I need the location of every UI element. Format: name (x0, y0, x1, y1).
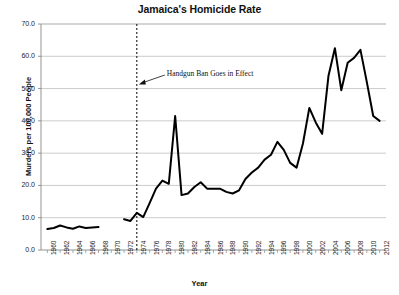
x-tick-2004: 2004 (332, 241, 339, 255)
x-tick-2008: 2008 (357, 241, 364, 255)
plot-area (0, 0, 399, 295)
y-tick-0.0: 0.0 (1, 246, 35, 253)
x-tick-1986: 1986 (217, 241, 224, 255)
x-tick-1964: 1964 (76, 241, 83, 255)
x-tick-1996: 1996 (280, 241, 287, 255)
x-tick-1994: 1994 (268, 241, 275, 255)
y-axis-title: Murders per 100,000 People (24, 52, 33, 202)
y-tick-40.0: 40.0 (1, 117, 35, 124)
line-segment-0 (47, 225, 98, 229)
x-tick-1966: 1966 (89, 241, 96, 255)
x-tick-1962: 1962 (63, 241, 70, 255)
handgun-ban-annotation-label: Handgun Ban Goes in Effect (167, 69, 254, 78)
y-tick-30.0: 30.0 (1, 149, 35, 156)
homicide-rate-chart: Jamaica's Homicide Rate Murders per 100,… (0, 0, 399, 295)
x-tick-2006: 2006 (344, 241, 351, 255)
x-tick-1974: 1974 (140, 241, 147, 255)
chart-title: Jamaica's Homicide Rate (0, 3, 399, 15)
y-tick-10.0: 10.0 (1, 214, 35, 221)
y-tick-70.0: 70.0 (1, 20, 35, 27)
x-tick-1980: 1980 (178, 241, 185, 255)
x-tick-1976: 1976 (153, 241, 160, 255)
x-tick-2012: 2012 (383, 241, 390, 255)
y-tick-60.0: 60.0 (1, 52, 35, 59)
x-tick-1982: 1982 (191, 241, 198, 255)
x-axis-title: Year (0, 279, 399, 288)
x-tick-1972: 1972 (127, 241, 134, 255)
x-tick-2002: 2002 (319, 241, 326, 255)
handgun-ban-arrow-icon (139, 75, 165, 85)
y-tick-20.0: 20.0 (1, 181, 35, 188)
x-tick-1992: 1992 (255, 241, 262, 255)
x-tick-1984: 1984 (204, 241, 211, 255)
y-tick-50.0: 50.0 (1, 85, 35, 92)
x-tick-1960: 1960 (50, 241, 57, 255)
x-tick-1990: 1990 (242, 241, 249, 255)
x-tick-1998: 1998 (293, 241, 300, 255)
x-tick-1988: 1988 (229, 241, 236, 255)
axes (41, 24, 386, 250)
x-tick-2010: 2010 (370, 241, 377, 255)
x-tick-1978: 1978 (165, 241, 172, 255)
x-tick-1968: 1968 (102, 241, 109, 255)
x-tick-1970: 1970 (114, 241, 121, 255)
x-tick-2000: 2000 (306, 241, 313, 255)
